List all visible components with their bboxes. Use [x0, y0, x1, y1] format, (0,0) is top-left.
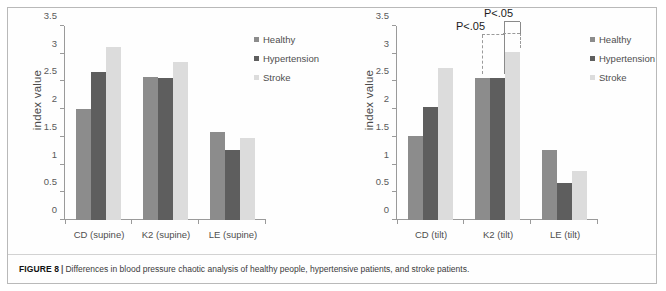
x-tick-start-left [65, 220, 66, 224]
x-tick-2-left [198, 220, 199, 224]
x-label-le-supine: LE (supine) [173, 229, 293, 240]
legend-swatch-hypertension-icon [254, 56, 259, 61]
bar-group-le-tilt: LE (tilt) [542, 26, 588, 220]
sig-label-1: P<.05 [456, 20, 485, 32]
plots-row: index value 0 0.5 1 1.5 2 2.5 3 [8, 8, 656, 253]
sig-bracket-2-inner-rule [503, 33, 520, 34]
sig-label-2: P<.05 [484, 7, 513, 19]
bar-cd-supine-hypertension [91, 72, 106, 220]
bar-k2-tilt-stroke [505, 52, 520, 221]
y-axis-line-right [396, 26, 397, 220]
y-axis-label-right: index value [363, 45, 375, 155]
figure-caption: FIGURE 8|Differences in blood pressure c… [19, 264, 646, 276]
x-label-le-tilt: LE (tilt) [505, 229, 625, 240]
y-axis-line-left [64, 26, 65, 220]
y-tick-3 [60, 136, 64, 137]
y-tick-0 [60, 219, 64, 220]
bar-k2-tilt-hypertension [490, 78, 505, 220]
legend-swatch-healthy-icon [254, 37, 259, 42]
y-tick-label-7-right: 3.5 [376, 10, 389, 21]
x-tick-1-right [463, 220, 464, 224]
bar-cd-supine-stroke [106, 47, 121, 220]
y-tick-5-right [392, 80, 396, 81]
legend-label-hypertension-tilt: Hypertension [599, 53, 655, 64]
legend-swatch-stroke-icon-tilt [590, 75, 595, 80]
y-tick-label-3-right: 1.5 [376, 120, 389, 131]
bar-k2-tilt-healthy [475, 78, 490, 220]
y-tick-label-5: 2.5 [44, 65, 57, 76]
chart-panel-supine: index value 0 0.5 1 1.5 2 2.5 3 [8, 8, 332, 253]
legend-item-healthy-tilt: Healthy [590, 30, 655, 49]
y-tick-label-0-right: 0 [384, 204, 389, 215]
bar-le-tilt-healthy [542, 150, 557, 220]
y-tick-label-4-right: 2 [384, 93, 389, 104]
y-tick-label-7: 3.5 [44, 10, 57, 21]
sig-bracket-2-top-left [504, 21, 520, 22]
bar-group-cd-supine: CD (supine) [76, 26, 122, 220]
y-tick-1-right [392, 191, 396, 192]
bar-cd-supine-healthy [76, 109, 91, 220]
legend-swatch-hypertension-icon-tilt [590, 56, 595, 61]
bar-group-cd-tilt: CD (tilt) [408, 26, 454, 220]
bar-le-tilt-stroke [572, 171, 587, 220]
y-tick-4-right [392, 108, 396, 109]
figure-frame: index value 0 0.5 1 1.5 2 2.5 3 [7, 7, 657, 284]
plot-area-supine: 0 0.5 1 1.5 2 2.5 3 3.5 [64, 26, 260, 220]
y-tick-label-6-right: 3 [384, 37, 389, 48]
legend-item-hypertension: Hypertension [254, 49, 319, 68]
caption-text: Differences in blood pressure chaotic an… [65, 264, 469, 274]
x-tick-end-left [265, 220, 266, 224]
y-tick-5 [60, 80, 64, 81]
bar-k2-supine-hypertension [158, 78, 173, 220]
y-tick-label-2-right: 1 [384, 148, 389, 159]
y-tick-4 [60, 108, 64, 109]
y-axis-label-left: index value [31, 45, 43, 155]
legend-item-hypertension-tilt: Hypertension [590, 49, 655, 68]
plot-area-tilt: 0 0.5 1 1.5 2 2.5 3 3.5 [396, 26, 592, 220]
y-tick-label-3: 1.5 [44, 120, 57, 131]
y-tick-0-right [392, 219, 396, 220]
x-tick-1-left [131, 220, 132, 224]
y-tick-label-4: 2 [52, 93, 57, 104]
bar-cd-tilt-stroke [438, 68, 453, 220]
legend-label-stroke: Stroke [263, 72, 290, 83]
y-tick-label-1-right: 0.5 [376, 176, 389, 187]
y-tick-3-right [392, 136, 396, 137]
bar-le-supine-hypertension [225, 150, 240, 220]
figure-number: FIGURE 8 [19, 264, 59, 274]
y-tick-1 [60, 191, 64, 192]
y-tick-2 [60, 164, 64, 165]
sig-bracket-2-mid-arm [520, 33, 521, 48]
legend-item-stroke: Stroke [254, 68, 319, 87]
y-tick-7 [60, 25, 64, 26]
legend-item-healthy: Healthy [254, 30, 319, 49]
bar-le-supine-healthy [210, 132, 225, 220]
legend-label-healthy: Healthy [263, 34, 295, 45]
sig-bracket-1-top [482, 34, 504, 35]
bar-cd-tilt-healthy [408, 136, 423, 220]
sig-bracket-2-right-arm [520, 22, 521, 34]
legend-item-stroke-tilt: Stroke [590, 68, 655, 87]
legend-label-stroke-tilt: Stroke [599, 72, 626, 83]
legend-swatch-healthy-icon-tilt [590, 37, 595, 42]
y-tick-label-2: 1 [52, 148, 57, 159]
y-tick-6-right [392, 53, 396, 54]
bar-k2-supine-stroke [173, 62, 188, 220]
bar-k2-supine-healthy [143, 77, 158, 220]
legend-label-healthy-tilt: Healthy [599, 34, 631, 45]
legend-supine: Healthy Hypertension Stroke [254, 30, 319, 87]
sig-bracket-1-left-arm [482, 35, 483, 74]
y-tick-label-5-right: 2.5 [376, 65, 389, 76]
bar-group-le-supine: LE (supine) [210, 26, 256, 220]
chart-panel-tilt: index value 0 0.5 1 1.5 2 2.5 3 3.5 [332, 8, 656, 253]
sig-bracket-2-left-arm [504, 22, 505, 48]
x-tick-2-right [530, 220, 531, 224]
x-tick-end-right [597, 220, 598, 224]
x-tick-start-right [397, 220, 398, 224]
bar-le-supine-stroke [240, 138, 255, 220]
y-tick-label-0: 0 [52, 204, 57, 215]
legend-label-hypertension: Hypertension [263, 53, 319, 64]
y-tick-6 [60, 53, 64, 54]
y-tick-2-right [392, 164, 396, 165]
bar-cd-tilt-hypertension [423, 107, 438, 220]
